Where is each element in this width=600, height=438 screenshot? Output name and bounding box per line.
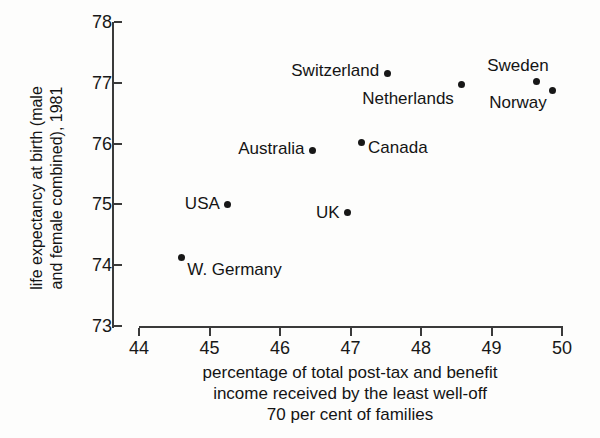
axis-title-line: 70 per cent of families bbox=[120, 404, 580, 425]
point-label-uk: UK bbox=[316, 204, 340, 222]
x-tick-label: 45 bbox=[188, 338, 232, 358]
y-tick-label-wrap: 75 bbox=[68, 195, 112, 213]
y-tick-label-wrap: 74 bbox=[68, 256, 112, 274]
x-tick-label: 44 bbox=[117, 338, 161, 358]
plot-area: 737475767778 44454647484950 W. GermanyUS… bbox=[0, 0, 600, 438]
y-tick-mark bbox=[114, 82, 122, 84]
data-point bbox=[178, 254, 185, 261]
y-tick-label-wrap: 77 bbox=[68, 74, 112, 92]
axis-title-line: and female combined), 1981 bbox=[47, 23, 67, 353]
y-tick-mark bbox=[114, 325, 122, 327]
y-tick-label-wrap: 78 bbox=[68, 13, 112, 31]
x-tick-label: 46 bbox=[258, 338, 302, 358]
y-tick-mark bbox=[114, 21, 122, 23]
y-tick-label: 78 bbox=[78, 13, 112, 31]
point-label-w-germany: W. Germany bbox=[187, 261, 281, 279]
data-point bbox=[384, 70, 391, 77]
point-label-sweden: Sweden bbox=[487, 57, 548, 75]
data-point bbox=[309, 147, 316, 154]
axis-title-line: life expectancy at birth (male bbox=[27, 23, 47, 353]
y-axis-title: life expectancy at birth (maleand female… bbox=[27, 23, 67, 353]
point-label-canada: Canada bbox=[368, 139, 428, 157]
y-tick-label-wrap: 76 bbox=[68, 135, 112, 153]
x-tick-label: 49 bbox=[470, 338, 514, 358]
y-tick-label: 75 bbox=[78, 195, 112, 213]
data-point bbox=[458, 81, 465, 88]
y-tick-label-wrap: 73 bbox=[68, 317, 112, 335]
axis-title-line: income received by the least well-off bbox=[120, 383, 580, 404]
scatter-plot-figure: 737475767778 44454647484950 W. GermanyUS… bbox=[0, 0, 600, 438]
x-tick-mark bbox=[491, 328, 493, 336]
y-tick-mark bbox=[114, 203, 122, 205]
y-axis-line bbox=[112, 22, 114, 328]
data-point bbox=[344, 209, 351, 216]
point-label-netherlands: Netherlands bbox=[362, 90, 454, 108]
y-tick-label: 73 bbox=[78, 317, 112, 335]
x-tick-mark bbox=[420, 328, 422, 336]
point-label-usa: USA bbox=[185, 195, 220, 213]
y-tick-label: 77 bbox=[78, 74, 112, 92]
x-axis-title: percentage of total post-tax and benefit… bbox=[120, 362, 580, 425]
point-label-australia: Australia bbox=[238, 140, 304, 158]
data-point bbox=[224, 201, 231, 208]
y-tick-label: 76 bbox=[78, 135, 112, 153]
x-tick-mark bbox=[209, 328, 211, 336]
y-tick-mark bbox=[114, 264, 122, 266]
y-tick-label: 74 bbox=[78, 256, 112, 274]
x-tick-label: 50 bbox=[540, 338, 584, 358]
x-tick-mark bbox=[138, 328, 140, 336]
point-label-norway: Norway bbox=[489, 94, 547, 112]
axis-title-line: percentage of total post-tax and benefit bbox=[120, 362, 580, 383]
x-tick-mark bbox=[561, 328, 563, 336]
x-tick-mark bbox=[350, 328, 352, 336]
y-tick-mark bbox=[114, 143, 122, 145]
x-tick-mark bbox=[279, 328, 281, 336]
x-tick-label: 47 bbox=[329, 338, 373, 358]
data-point bbox=[549, 87, 556, 94]
point-label-switzerland: Switzerland bbox=[291, 62, 379, 80]
x-tick-label: 48 bbox=[399, 338, 443, 358]
data-point bbox=[533, 78, 540, 85]
data-point bbox=[358, 139, 365, 146]
